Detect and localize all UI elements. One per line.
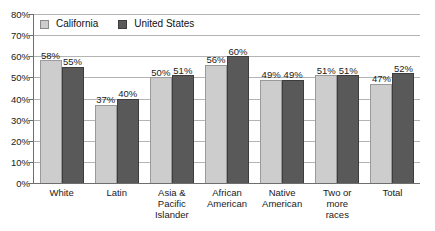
- y-axis-tick-label: 70%: [2, 31, 30, 41]
- bar-california[interactable]: 37%: [95, 105, 117, 183]
- bar-groups: 58%55%37%40%50%51%56%60%49%49%51%51%47%5…: [34, 14, 420, 183]
- bar-value-label: 51%: [173, 66, 192, 76]
- bar-united-states[interactable]: 51%: [172, 75, 194, 183]
- bar-united-states[interactable]: 51%: [337, 75, 359, 183]
- y-axis-tick-label: 0%: [2, 179, 30, 189]
- y-axis-tick-label: 20%: [2, 137, 30, 147]
- chart-legend: CaliforniaUnited States: [40, 19, 194, 29]
- x-axis-category-label: Latin: [89, 187, 144, 220]
- bar-group: 49%49%: [255, 14, 310, 183]
- bar-value-label: 49%: [284, 70, 303, 80]
- bar-value-label: 51%: [339, 66, 358, 76]
- y-axis-tick: [28, 183, 33, 184]
- x-axis-category-label: Two ormoreraces: [310, 187, 365, 220]
- legend-swatch-icon: [118, 20, 127, 29]
- x-axis-category-label: Asia &PacificIslander: [144, 187, 199, 220]
- bar-group: 47%52%: [365, 14, 420, 183]
- y-axis-tick-label: 50%: [2, 73, 30, 83]
- bar-value-label: 52%: [394, 64, 413, 74]
- bar-united-states[interactable]: 52%: [392, 73, 414, 183]
- y-axis-tick-label: 30%: [2, 116, 30, 126]
- bar-value-label: 55%: [63, 57, 82, 67]
- y-axis-tick: [28, 99, 33, 100]
- x-axis-category-label: Total: [365, 187, 420, 220]
- y-axis-tick-label: 60%: [2, 52, 30, 62]
- bar-united-states[interactable]: 49%: [282, 80, 304, 184]
- bar-value-label: 51%: [317, 66, 336, 76]
- y-axis-tick: [28, 141, 33, 142]
- x-axis-category-label: AfricanAmerican: [199, 187, 254, 220]
- bar-california[interactable]: 51%: [315, 75, 337, 183]
- x-axis-labels: WhiteLatinAsia &PacificIslanderAfricanAm…: [34, 187, 420, 220]
- y-axis-tick: [28, 56, 33, 57]
- y-axis-tick: [28, 120, 33, 121]
- bar-value-label: 58%: [41, 51, 60, 61]
- bar-value-label: 56%: [206, 55, 225, 65]
- bar-group: 56%60%: [199, 14, 254, 183]
- bar-value-label: 49%: [262, 70, 281, 80]
- legend-item[interactable]: United States: [118, 19, 194, 29]
- axis-baseline: [33, 183, 420, 184]
- bar-california[interactable]: 47%: [370, 84, 392, 183]
- legend-label: United States: [134, 19, 194, 29]
- bar-california[interactable]: 56%: [205, 65, 227, 183]
- y-axis-tick-label: 80%: [2, 10, 30, 20]
- x-axis-category-label: White: [34, 187, 89, 220]
- bar-value-label: 60%: [228, 47, 247, 57]
- legend-swatch-icon: [40, 20, 49, 29]
- bar-united-states[interactable]: 40%: [117, 99, 139, 184]
- legend-item[interactable]: California: [40, 19, 98, 29]
- bar-value-label: 47%: [372, 74, 391, 84]
- bar-chart: 80%70%60%50%40%30%20%10%0% 58%55%37%40%5…: [0, 0, 435, 231]
- bar-group: 58%55%: [34, 14, 89, 183]
- y-axis-tick-label: 40%: [2, 95, 30, 105]
- bar-united-states[interactable]: 55%: [62, 67, 84, 183]
- bar-group: 37%40%: [89, 14, 144, 183]
- bar-california[interactable]: 50%: [150, 77, 172, 183]
- legend-label: California: [56, 19, 98, 29]
- y-axis-tick: [28, 14, 33, 15]
- bar-value-label: 40%: [118, 89, 137, 99]
- y-axis-tick-label: 10%: [2, 158, 30, 168]
- bar-california[interactable]: 58%: [40, 60, 62, 183]
- x-axis-category-label: NativeAmerican: [255, 187, 310, 220]
- y-axis-tick: [28, 35, 33, 36]
- bar-group: 51%51%: [310, 14, 365, 183]
- bar-value-label: 50%: [151, 68, 170, 78]
- y-axis-labels: 80%70%60%50%40%30%20%10%0%: [0, 14, 30, 183]
- y-axis-tick: [28, 77, 33, 78]
- bar-california[interactable]: 49%: [260, 80, 282, 184]
- y-axis-tick: [28, 162, 33, 163]
- bar-united-states[interactable]: 60%: [227, 56, 249, 183]
- bar-group: 50%51%: [144, 14, 199, 183]
- bar-value-label: 37%: [96, 95, 115, 105]
